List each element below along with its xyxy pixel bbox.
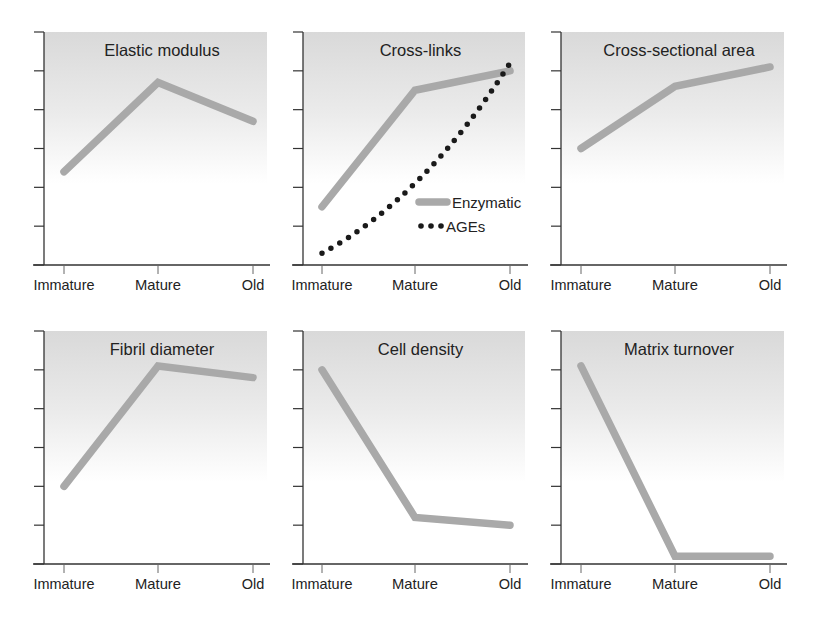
panel-cross-sectional-area: ImmatureMatureOldCross-sectional area	[550, 32, 787, 293]
x-tick-label: Old	[242, 576, 265, 592]
x-tick-label: Mature	[392, 277, 438, 293]
panel-matrix-turnover: ImmatureMatureOldMatrix turnover	[550, 331, 787, 592]
x-tick-label: Mature	[652, 576, 698, 592]
x-tick-label: Immature	[551, 576, 612, 592]
panel-elastic-modulus: ImmatureMatureOldElastic modulus	[33, 32, 270, 293]
legend-swatch-ages-dot	[438, 223, 444, 229]
x-tick-label: Immature	[292, 576, 353, 592]
panels-grid: ImmatureMatureOldElastic modulusImmature…	[33, 32, 787, 592]
x-tick-label: Immature	[292, 277, 353, 293]
panel-title: Cross-links	[380, 41, 462, 59]
legend-label-ages: AGEs	[446, 218, 485, 235]
x-tick-label: Immature	[34, 576, 95, 592]
x-tick-label: Immature	[551, 277, 612, 293]
panel-title: Elastic modulus	[104, 41, 220, 59]
legend-label-enzymatic: Enzymatic	[452, 194, 522, 211]
panel-cell-density: ImmatureMatureOldCell density	[292, 331, 529, 592]
figure: ImmatureMatureOldElastic modulusImmature…	[0, 0, 827, 639]
panel-title: Cross-sectional area	[603, 41, 755, 59]
panel-title: Cell density	[378, 340, 464, 358]
x-tick-label: Mature	[135, 576, 181, 592]
x-tick-label: Mature	[392, 576, 438, 592]
panel-fibril-diameter: ImmatureMatureOldFibril diameter	[33, 331, 270, 592]
panel-background	[44, 32, 267, 265]
x-tick-label: Old	[499, 277, 522, 293]
legend-swatch-ages-dot	[418, 223, 424, 229]
x-tick-label: Mature	[135, 277, 181, 293]
x-tick-label: Immature	[34, 277, 95, 293]
panel-background	[561, 331, 784, 564]
panel-title: Fibril diameter	[110, 340, 215, 358]
x-tick-label: Mature	[652, 277, 698, 293]
legend-swatch-ages-dot	[428, 223, 434, 229]
x-tick-label: Old	[242, 277, 265, 293]
panel-background	[303, 331, 525, 564]
x-tick-label: Old	[759, 576, 782, 592]
panel-background	[303, 32, 525, 265]
panel-title: Matrix turnover	[624, 340, 735, 358]
x-tick-label: Old	[759, 277, 782, 293]
panel-background	[561, 32, 784, 265]
panel-cross-links: ImmatureMatureOldCross-linksEnzymaticAGE…	[292, 32, 529, 293]
x-tick-label: Old	[499, 576, 522, 592]
